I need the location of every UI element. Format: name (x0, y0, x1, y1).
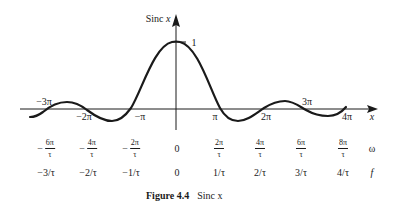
numerator: 2π (130, 138, 140, 149)
sinc-plot (0, 0, 393, 208)
xtick-3pi: 3π (302, 97, 312, 107)
x-axis-label: x (370, 112, 374, 122)
xtick-pi: π (212, 112, 217, 122)
figure: Sinc x 1 −3π −2π −π π 2π 3π 4π x − 6πτ −… (0, 0, 393, 208)
xtick-minus-pi: −π (135, 112, 146, 122)
denominator: τ (299, 149, 302, 159)
numerator: 4π (87, 138, 97, 149)
minus-sign: − (79, 143, 85, 154)
omega-tick-minus-2pi-tau: − 2πτ (122, 138, 140, 159)
omega-tick-8pi-tau: 8πτ (338, 138, 348, 159)
xtick-minus-2pi: −2π (76, 112, 92, 122)
peak-label: 1 (192, 38, 197, 48)
numerator: 8π (338, 138, 348, 149)
figure-caption: Figure 4.4Sinc x (146, 190, 222, 201)
freq-tick-1-tau: 1/τ (213, 167, 225, 178)
omega-tick-4pi-tau: 4πτ (255, 138, 265, 159)
omega-tick-2pi-tau: 2πτ (214, 138, 224, 159)
xtick-4pi: 4π (342, 112, 352, 122)
freq-tick-minus-3-tau: −3/τ (37, 167, 54, 178)
numerator: 6π (296, 138, 306, 149)
freq-tick-4-tau: 4/τ (337, 167, 349, 178)
omega-row-label: ω (369, 143, 376, 154)
figure-title: Sinc x (197, 190, 222, 201)
denominator: τ (258, 149, 261, 159)
freq-tick-2-tau: 2/τ (254, 167, 266, 178)
omega-tick-minus-4pi-tau: − 4πτ (79, 138, 97, 159)
denominator: τ (48, 149, 51, 159)
denominator: τ (90, 149, 93, 159)
minus-sign: − (122, 143, 128, 154)
y-axis-label: Sinc x (146, 14, 171, 24)
numerator: 2π (214, 138, 224, 149)
freq-row-label: f (371, 167, 374, 178)
y-axis-label-var: x (166, 13, 170, 24)
freq-tick-3-tau: 3/τ (295, 167, 307, 178)
omega-tick-6pi-tau: 6πτ (296, 138, 306, 159)
xtick-minus-3pi: −3π (36, 97, 52, 107)
denominator: τ (133, 149, 136, 159)
figure-number: Figure 4.4 (146, 190, 189, 201)
minus-sign: − (37, 143, 43, 154)
freq-tick-minus-2-tau: −2/τ (79, 167, 96, 178)
freq-tick-minus-1-tau: −1/τ (122, 167, 139, 178)
denominator: τ (217, 149, 220, 159)
omega-tick-minus-6pi-tau: − 6πτ (37, 138, 55, 159)
denominator: τ (341, 149, 344, 159)
omega-tick-zero: 0 (175, 143, 180, 154)
freq-tick-zero: 0 (175, 167, 180, 178)
numerator: 4π (255, 138, 265, 149)
xtick-2pi: 2π (261, 112, 271, 122)
y-axis-label-text: Sinc (146, 13, 164, 24)
numerator: 6π (45, 138, 55, 149)
